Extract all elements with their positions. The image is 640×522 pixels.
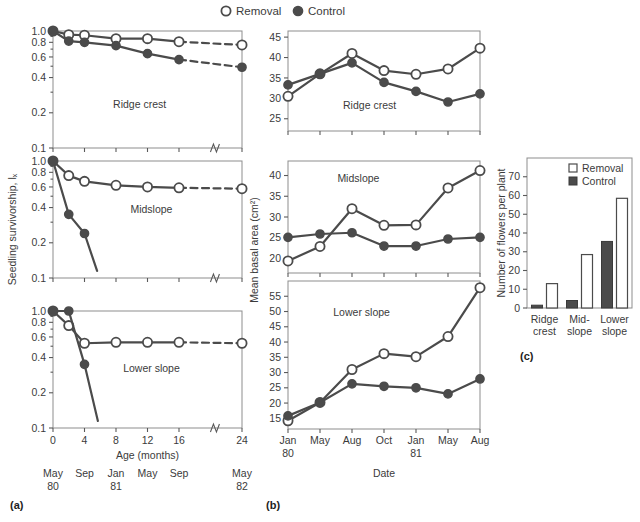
subpanel-a-2: 1.00.80.60.40.20.1Lower slope xyxy=(31,305,246,434)
data-point-control xyxy=(49,307,57,315)
series-line-dashed xyxy=(179,60,242,68)
subpanel-a-0: 1.00.80.60.40.20.1Ridge crest xyxy=(31,25,246,154)
data-point-removal xyxy=(64,171,73,180)
data-point-removal xyxy=(237,339,246,348)
y-tick-label: 25 xyxy=(269,112,281,124)
y-tick-label: 30 xyxy=(269,211,281,223)
plot-frame xyxy=(288,161,480,273)
date-tick-month: Jan xyxy=(108,467,125,479)
date-tick-year: 80 xyxy=(47,480,59,492)
subpanel-title: Ridge crest xyxy=(113,98,166,110)
bar-category-label-2: slope xyxy=(567,325,592,337)
data-point-control xyxy=(65,307,73,315)
data-point-control xyxy=(348,229,356,237)
subpanel-a-1: 1.00.80.60.40.20.1Midslope xyxy=(31,155,246,284)
y-tick-label: 0.2 xyxy=(31,236,46,248)
x-tick-label: Aug xyxy=(471,434,490,446)
panel-a-ylabel: Seedling survivorship, lₓ xyxy=(6,173,18,285)
data-point-control xyxy=(49,27,57,35)
data-point-removal xyxy=(237,40,246,49)
legend-control-swatch xyxy=(569,177,577,185)
y-tick-label: 0.1 xyxy=(31,142,46,154)
subpanel-title: Ridge crest xyxy=(343,99,396,111)
y-tick-label: 30 xyxy=(269,366,281,378)
y-tick-label: 0.1 xyxy=(31,422,46,434)
legend-removal-marker xyxy=(221,6,230,15)
axis-break-icon xyxy=(210,144,219,152)
data-point-control xyxy=(238,63,246,71)
axis-break-icon xyxy=(210,424,219,432)
data-point-control xyxy=(49,157,57,165)
data-point-control xyxy=(412,384,420,392)
data-point-control xyxy=(444,390,452,398)
y-tick-label: 0.6 xyxy=(31,331,46,343)
x-tick-label: 4 xyxy=(82,434,88,446)
data-point-control xyxy=(476,375,484,383)
x-tick-label: Jan xyxy=(280,434,297,446)
y-tick-label: 70 xyxy=(508,170,520,182)
panel-a-axis-labels: 048121624Age (months)May80SepJan81MaySep… xyxy=(43,434,253,492)
panel-b-part-label: (b) xyxy=(266,499,280,511)
legend-removal-label: Removal xyxy=(236,5,281,17)
y-tick-label: 15 xyxy=(269,412,281,424)
data-point-removal xyxy=(174,37,183,46)
y-tick-label: 40 xyxy=(508,227,520,239)
series-line-dashed xyxy=(179,42,242,45)
data-point-removal xyxy=(347,365,356,374)
y-tick-label: 10 xyxy=(508,283,520,295)
x-tick-label: 12 xyxy=(142,434,154,446)
data-point-control xyxy=(380,242,388,250)
x-tick-label: May xyxy=(310,434,331,446)
data-point-removal xyxy=(475,283,484,292)
panel-b-xlabel: Date xyxy=(373,467,395,479)
y-tick-label: 0.4 xyxy=(31,351,46,363)
bar-category-label-2: slope xyxy=(602,325,627,337)
y-tick-label: 20 xyxy=(269,397,281,409)
subpanel-title: Lower slope xyxy=(333,306,390,318)
bar-removal-1 xyxy=(582,255,593,308)
y-tick-label: 45 xyxy=(269,320,281,332)
bar-category-label: Ridge xyxy=(531,313,559,325)
y-tick-label: 1.0 xyxy=(31,25,46,37)
plot-frame xyxy=(53,31,242,148)
data-point-control xyxy=(348,59,356,67)
data-point-removal xyxy=(315,242,324,251)
data-point-control xyxy=(444,98,452,106)
legend-removal-label: Removal xyxy=(582,162,623,174)
data-point-removal xyxy=(80,339,89,348)
data-point-removal xyxy=(379,66,388,75)
data-point-control xyxy=(80,229,88,237)
data-point-removal xyxy=(237,184,246,193)
bar-category-label: Mid- xyxy=(569,313,590,325)
bar-category-label-2: crest xyxy=(533,325,556,337)
data-point-control xyxy=(380,382,388,390)
y-tick-label: 0 xyxy=(514,302,520,314)
y-tick-label: 30 xyxy=(508,245,520,257)
y-tick-label: 25 xyxy=(269,231,281,243)
series-line-control xyxy=(53,311,98,421)
y-tick-label: 45 xyxy=(269,31,281,43)
subpanel-title: Midslope xyxy=(130,203,172,215)
y-tick-label: 30 xyxy=(269,92,281,104)
legend-control-label: Control xyxy=(308,5,345,17)
data-point-removal xyxy=(174,183,183,192)
figure-legend: RemovalControl xyxy=(221,5,345,17)
x-tick-year: 80 xyxy=(282,447,294,459)
data-point-control xyxy=(65,210,73,218)
data-point-control xyxy=(65,37,73,45)
subpanel-title: Midslope xyxy=(337,172,379,184)
data-point-control xyxy=(380,78,388,86)
data-point-removal xyxy=(143,34,152,43)
y-tick-label: 0.6 xyxy=(31,181,46,193)
data-point-control xyxy=(143,50,151,58)
data-point-removal xyxy=(475,166,484,175)
y-tick-label: 0.6 xyxy=(31,51,46,63)
y-tick-label: 0.8 xyxy=(31,36,46,48)
data-point-removal xyxy=(379,221,388,230)
data-point-removal xyxy=(411,220,420,229)
data-point-removal xyxy=(143,182,152,191)
y-tick-label: 0.2 xyxy=(31,106,46,118)
data-point-removal xyxy=(80,177,89,186)
data-point-control xyxy=(316,230,324,238)
y-tick-label: 0.2 xyxy=(31,386,46,398)
